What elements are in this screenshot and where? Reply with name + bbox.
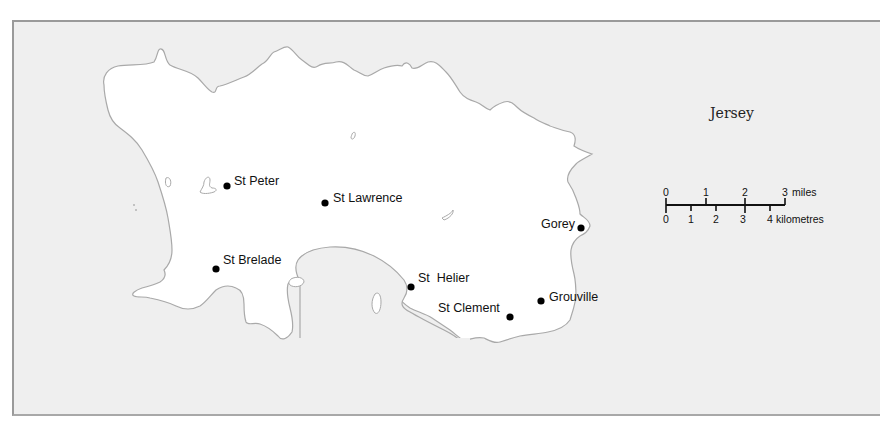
place-marker-icon bbox=[223, 182, 230, 189]
place-marker-icon bbox=[321, 199, 328, 206]
place-marker-icon bbox=[577, 224, 584, 231]
islet-elizabeth-castle bbox=[372, 293, 381, 313]
place-marker-icon bbox=[537, 297, 544, 304]
place-marker-icon bbox=[506, 313, 513, 320]
place-label: St Clement bbox=[438, 301, 500, 315]
place-label: St Lawrence bbox=[333, 191, 403, 205]
jersey-map: Jersey 0 1 2 3 miles 0 1 2 3 4 kilometre… bbox=[0, 0, 882, 425]
scale-km-3: 3 bbox=[740, 213, 746, 225]
scale-km-2: 2 bbox=[713, 213, 719, 225]
map-title: Jersey bbox=[708, 105, 754, 121]
scale-miles-unit: miles bbox=[792, 186, 817, 198]
islet bbox=[289, 277, 304, 286]
sea-fill bbox=[290, 338, 470, 358]
islet-west bbox=[165, 178, 170, 187]
place-label: St Helier bbox=[418, 271, 469, 285]
place-label: St Brelade bbox=[223, 253, 281, 267]
place-marker-icon bbox=[212, 265, 219, 272]
scale-mile-0: 0 bbox=[663, 186, 669, 198]
place-label: Grouville bbox=[549, 290, 598, 304]
place-st-lawrence: St Lawrence bbox=[321, 191, 402, 207]
place-marker-icon bbox=[407, 283, 414, 290]
scale-mile-3: 3 bbox=[782, 186, 788, 198]
scale-km-unit: kilometres bbox=[776, 213, 824, 225]
place-label: St Peter bbox=[234, 174, 279, 188]
scale-mile-1: 1 bbox=[703, 186, 709, 198]
rock-speck bbox=[133, 204, 135, 206]
place-label: Gorey bbox=[541, 217, 576, 231]
scale-km-4: 4 bbox=[767, 213, 773, 225]
rock-speck bbox=[135, 209, 137, 211]
scale-mile-2: 2 bbox=[742, 186, 748, 198]
scale-km-0: 0 bbox=[663, 213, 669, 225]
scale-km-1: 1 bbox=[688, 213, 694, 225]
scale-bar: 0 1 2 3 miles 0 1 2 3 4 kilometres bbox=[663, 186, 824, 225]
